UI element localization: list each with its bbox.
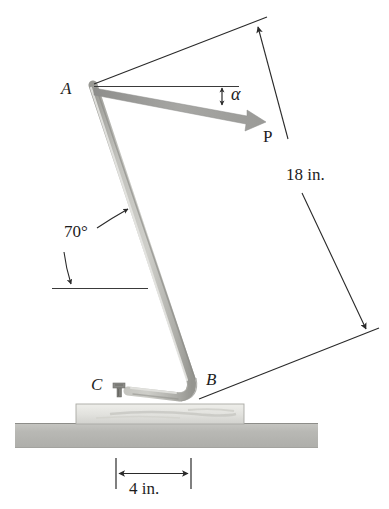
diagram-svg [0,0,389,509]
label-point-c: C [91,376,102,393]
label-dimension-4in: 4 in. [129,480,159,497]
label-angle-70: 70° [64,223,88,240]
base-block [76,404,244,424]
label-force-p: P [263,128,272,145]
figure-canvas: A B C P α 70° 18 in. 4 in. [0,0,389,509]
ground-surface [15,423,318,448]
label-dimension-18in: 18 in. [286,166,325,183]
label-point-b: B [206,371,216,388]
bent-rod [91,85,197,401]
pin-bolt-at-c [113,383,125,397]
label-angle-alpha: α [231,85,240,103]
label-point-a: A [61,80,71,97]
